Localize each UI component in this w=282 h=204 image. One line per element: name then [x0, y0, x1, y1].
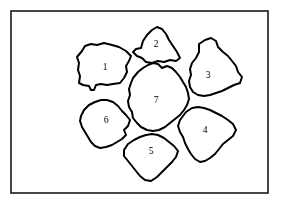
region-5-label: 5	[149, 146, 154, 156]
diagram-canvas: 1234567	[0, 0, 282, 204]
region-4-label: 4	[203, 125, 208, 135]
region-6-label: 6	[104, 115, 109, 125]
region-1-label: 1	[103, 62, 108, 72]
region-3-label: 3	[206, 70, 211, 80]
region-7-label: 7	[154, 95, 159, 105]
region-2-label: 2	[154, 39, 159, 49]
figure-container: 1234567	[0, 0, 282, 204]
